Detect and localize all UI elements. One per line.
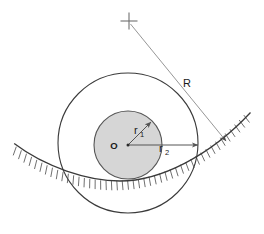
technical-diagram-figure: O r 1 r 2 R <box>0 0 264 234</box>
r2-label-subscript: 2 <box>165 148 169 157</box>
R-label: R <box>183 77 191 89</box>
diagram-canvas: O r 1 r 2 R <box>0 0 264 234</box>
r2-label-base: r <box>159 142 163 154</box>
r1-label-subscript: 1 <box>140 130 144 139</box>
center-label: O <box>110 140 117 151</box>
center-point-dot <box>127 144 130 147</box>
curvature-center-cross-icon <box>121 13 138 30</box>
r1-label-base: r <box>134 124 138 136</box>
